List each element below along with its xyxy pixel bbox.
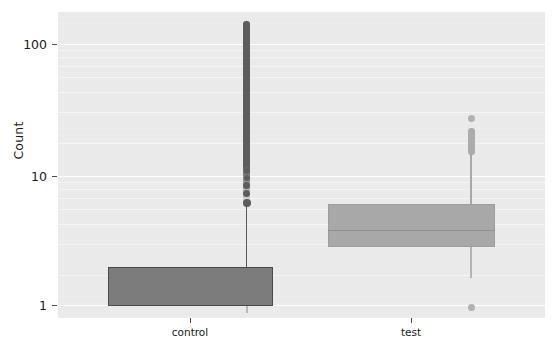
y-tick-mark-1 (52, 305, 57, 306)
gridline-major-100 (58, 44, 545, 45)
control-outlier-point (244, 168, 250, 174)
test-median-line (328, 230, 495, 232)
control-outlier-point (243, 190, 250, 197)
x-tick-label-control: control (172, 326, 208, 338)
control-outlier-point (244, 175, 250, 181)
gridline-minor (58, 50, 545, 51)
x-tick-mark-control (190, 318, 191, 323)
gridline-minor (58, 57, 545, 58)
plot-panel (58, 12, 545, 318)
boxplot-figure: Count 100 10 1 control test (0, 0, 557, 349)
gridline-minor (58, 66, 545, 67)
test-outlier-point (468, 115, 475, 122)
control-outlier-point (243, 182, 250, 189)
gridline-minor (58, 182, 545, 183)
control-whisker-upper (246, 202, 248, 267)
test-box[interactable] (328, 204, 495, 247)
control-whisker-lower (246, 306, 248, 313)
y-tick-label-100: 100 (23, 37, 47, 52)
y-tick-mark-10 (52, 176, 57, 177)
test-outlier-point (468, 304, 475, 311)
y-tick-label-1: 1 (39, 298, 47, 313)
y-axis-label: Count (11, 101, 26, 181)
test-whisker-lower (470, 247, 472, 278)
control-median-line (108, 305, 273, 307)
gridline-minor (58, 92, 545, 93)
gridline-minor (58, 198, 545, 199)
test-whisker-upper (470, 153, 472, 204)
gridline-minor (58, 112, 545, 113)
x-tick-mark-test (411, 318, 412, 323)
gridline-minor (58, 189, 545, 190)
test-outlier-column (468, 128, 475, 155)
control-box[interactable] (108, 267, 273, 306)
gridline-minor (58, 77, 545, 78)
gridline-major-10 (58, 176, 545, 177)
y-tick-label-10: 10 (31, 169, 47, 184)
x-tick-label-test: test (401, 326, 421, 338)
y-tick-mark-100 (52, 44, 57, 45)
